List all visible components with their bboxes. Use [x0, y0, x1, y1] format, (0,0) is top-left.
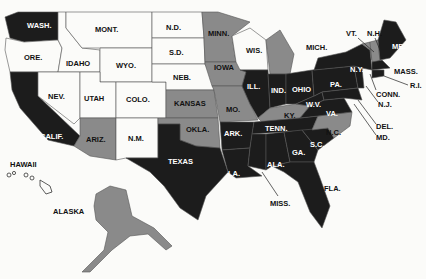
label-tenn: TENN.: [265, 124, 288, 133]
label-wv: W.V.: [306, 100, 321, 109]
label-miss: MISS.: [270, 199, 290, 208]
label-hawaii: HAWAII: [10, 160, 37, 169]
label-calif: CALIF.: [40, 132, 63, 141]
label-ga: GA.: [292, 148, 305, 157]
label-kansas: KANSAS: [174, 99, 206, 108]
label-ind: IND.: [271, 86, 286, 95]
label-mich: MICH.: [306, 43, 327, 52]
state-fla[interactable]: [272, 162, 330, 228]
label-neb: NEB.: [173, 73, 191, 82]
label-nc: N.C.: [326, 128, 341, 137]
state-me[interactable]: [378, 20, 406, 60]
label-del: DEL.: [376, 122, 393, 131]
label-la: LA.: [228, 169, 240, 178]
label-pa: PA.: [330, 80, 342, 89]
label-sc: S.C.: [310, 140, 325, 149]
label-minn: MINN.: [208, 29, 229, 38]
label-mo: MO.: [226, 105, 240, 114]
label-wyo: WYO.: [116, 61, 136, 70]
label-ore: ORE.: [24, 53, 42, 62]
state-conn-ri[interactable]: [372, 70, 384, 78]
label-texas: TEXAS: [168, 157, 193, 166]
state-mich[interactable]: [266, 30, 294, 74]
label-mass: MASS.: [394, 67, 418, 76]
label-nd: N.D.: [166, 23, 181, 32]
label-wis: WIS.: [246, 46, 262, 55]
label-ohio: OHIO: [292, 85, 311, 94]
label-nev: NEV.: [48, 92, 65, 101]
state-mass[interactable]: [372, 60, 390, 70]
label-alaska: ALASKA: [53, 207, 85, 216]
label-ark: ARK.: [224, 129, 242, 138]
label-sd: S.D.: [169, 48, 184, 57]
label-nm: N.M.: [128, 134, 144, 143]
label-fla: FLA.: [324, 184, 341, 193]
label-okla: OKLA.: [186, 125, 209, 134]
label-conn: CONN.: [376, 90, 400, 99]
label-nj: N.J.: [378, 100, 392, 109]
label-ny: N.Y.: [350, 65, 364, 74]
label-vt: VT.: [346, 29, 357, 38]
label-ariz: ARIZ.: [86, 135, 106, 144]
label-md: MD.: [376, 133, 390, 142]
label-nh: N.H.: [367, 29, 382, 38]
label-colo: COLO.: [126, 95, 150, 104]
us-map: WASH. ORE. CALIF. IDAHO NEV. MONT. WYO. …: [0, 0, 426, 279]
label-ill: ILL.: [247, 82, 260, 91]
label-idaho: IDAHO: [66, 59, 90, 68]
label-iowa: IOWA: [214, 63, 235, 72]
label-ky: KY.: [284, 111, 296, 120]
label-me: ME.: [392, 42, 405, 51]
label-wash: WASH.: [27, 21, 52, 30]
label-mont: MONT.: [95, 25, 118, 34]
label-va: VA.: [326, 109, 338, 118]
state-alaska[interactable]: [82, 186, 172, 272]
label-utah: UTAH: [84, 94, 104, 103]
label-ala: ALA.: [267, 160, 285, 169]
label-ri: R.I.: [410, 81, 422, 90]
state-hawaii[interactable]: [7, 171, 52, 194]
